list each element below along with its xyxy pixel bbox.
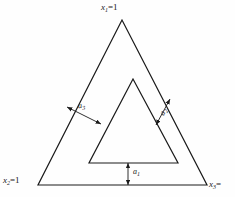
vertex-label-x2: x2=1 [3, 176, 20, 185]
inner-triangle [89, 79, 178, 163]
ternary-constraint-diagram: x1=1 x2=1 x3= a3 a2 a1 [0, 0, 235, 197]
diagram-canvas [0, 0, 235, 197]
vertex-label-x1: x1=1 [101, 3, 118, 12]
vertex-label-x3: x3= [209, 180, 221, 189]
dimension-label-a3: a3 [78, 102, 86, 111]
dimension-label-a1: a1 [133, 168, 140, 176]
outer-triangle [38, 20, 207, 185]
